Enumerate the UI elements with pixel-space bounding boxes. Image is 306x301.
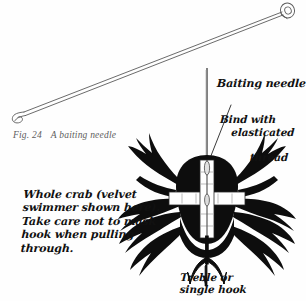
crab-leg-right-3 bbox=[230, 226, 284, 276]
binding-band-vertical bbox=[200, 160, 214, 238]
crab-claw-left bbox=[128, 133, 178, 185]
binding-band-horizontal bbox=[169, 192, 245, 205]
label-whole-crab-note: Whole crab (velvet swimmer shown here). … bbox=[20, 188, 161, 255]
label-bind-line-2: elasticated bbox=[219, 126, 295, 138]
crab-claw-right-arm bbox=[238, 176, 278, 197]
needle-shaft-upper bbox=[24, 12, 282, 112]
needle-eye-loop bbox=[278, 1, 296, 20]
needle-eye-join bbox=[281, 14, 287, 19]
binding-threads-horizontal bbox=[182, 194, 232, 204]
label-baiting-needle: Baiting needle bbox=[217, 78, 306, 91]
hook-shank bbox=[206, 236, 209, 264]
label-treble-or-single-hook: Treble or single hook bbox=[179, 271, 247, 296]
figure-illustration-page: Fig. 24A baiting needle Whole crab (velv… bbox=[0, 0, 306, 301]
crab-leg-right-1 bbox=[234, 199, 296, 231]
crab-abdomen bbox=[180, 218, 234, 258]
needle-barb-hook bbox=[12, 112, 24, 123]
crab-leg-right-2 bbox=[233, 212, 295, 253]
label-bind-line-1: Bind with bbox=[220, 113, 277, 125]
figure-number: Fig. 24 bbox=[13, 130, 42, 140]
label-bind-line-3: thread bbox=[218, 151, 294, 163]
figure-caption-text: A baiting needle bbox=[51, 130, 116, 140]
binding-threads-vertical bbox=[201, 172, 213, 226]
needle-eye-hole bbox=[284, 6, 293, 15]
figure-caption: Fig. 24A baiting needle bbox=[13, 130, 116, 140]
label-bind-with-elasticated-thread: Bind with elasticated thread bbox=[217, 101, 296, 175]
vertical-needle bbox=[204, 68, 209, 238]
needle-barb-inner bbox=[15, 116, 26, 122]
